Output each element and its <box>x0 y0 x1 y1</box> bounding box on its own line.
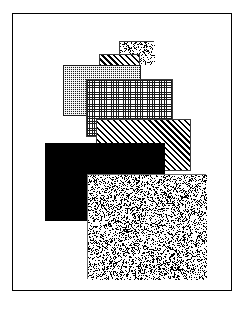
texture-noise-layer <box>88 175 207 280</box>
figure-page <box>0 0 245 314</box>
pattern-swatch-noise-fine <box>87 174 206 279</box>
figure-border <box>12 13 232 291</box>
pattern-swatch-stack <box>13 14 231 290</box>
